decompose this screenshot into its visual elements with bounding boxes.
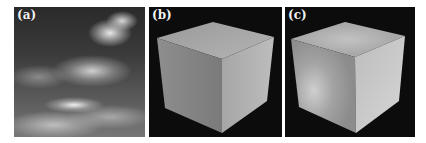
panel-b-label: (b): [152, 9, 172, 22]
panel-b-cube: (b): [149, 7, 282, 137]
panel-c-label: (c): [288, 9, 307, 22]
panel-c-cube: (c): [285, 7, 415, 137]
panel-a-sky: (a): [14, 7, 145, 137]
panel-a-label: (a): [17, 9, 36, 22]
cube-b-image: [149, 7, 282, 137]
cube-c-image: [285, 7, 415, 137]
